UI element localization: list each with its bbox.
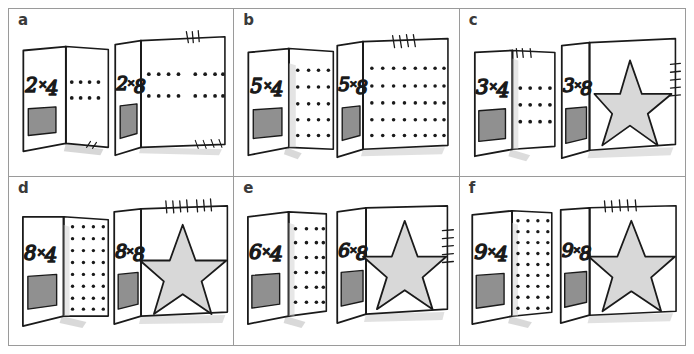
svg-text:4: 4 xyxy=(269,242,283,266)
panel-label-b: b xyxy=(243,13,254,28)
panel-d: d 8 × 4 xyxy=(9,177,234,345)
worksheet-sheet: a xyxy=(0,0,694,354)
panel-label-c: c xyxy=(469,13,478,28)
panel-a: a xyxy=(9,9,234,177)
svg-text:6: 6 xyxy=(249,240,262,264)
panel-label-e: e xyxy=(243,181,253,196)
svg-text:4: 4 xyxy=(270,78,284,101)
panel-label-f: f xyxy=(469,181,476,196)
svg-text:3: 3 xyxy=(475,75,488,99)
svg-text:8: 8 xyxy=(580,78,592,99)
svg-text:4: 4 xyxy=(44,244,58,267)
panel-label-d: d xyxy=(18,181,29,196)
panel-c: c 3 × 4 xyxy=(460,9,685,177)
panel-b: b 5 × 4 xyxy=(234,9,459,177)
svg-text:9: 9 xyxy=(474,240,487,264)
svg-text:4: 4 xyxy=(495,78,509,102)
panel-a-illustration: 2 × 4 xyxy=(9,9,233,176)
panel-e: e 6 × 4 xyxy=(234,177,459,345)
panel-c-illustration: 3 × 4 xyxy=(460,9,685,176)
svg-text:8: 8 xyxy=(579,242,591,264)
expression-a-left: 2 xyxy=(24,74,38,97)
expression-a-right-b: 8 xyxy=(134,76,146,97)
svg-text:8: 8 xyxy=(356,77,368,98)
panel-e-illustration: 6 × 4 xyxy=(234,177,458,345)
panel-d-illustration: 8 × 4 xyxy=(9,177,233,345)
panel-b-illustration: 5 × 4 xyxy=(234,9,458,176)
svg-text:8: 8 xyxy=(24,242,37,265)
panel-grid: a xyxy=(8,8,686,346)
panel-f-illustration: 9 × 4 xyxy=(460,177,685,345)
panel-label-a: a xyxy=(18,13,28,28)
svg-text:4: 4 xyxy=(494,242,508,266)
svg-text:5: 5 xyxy=(251,75,264,98)
panel-f: f 9 × 4 xyxy=(460,177,685,345)
expression-a-left-b: 4 xyxy=(45,77,59,100)
